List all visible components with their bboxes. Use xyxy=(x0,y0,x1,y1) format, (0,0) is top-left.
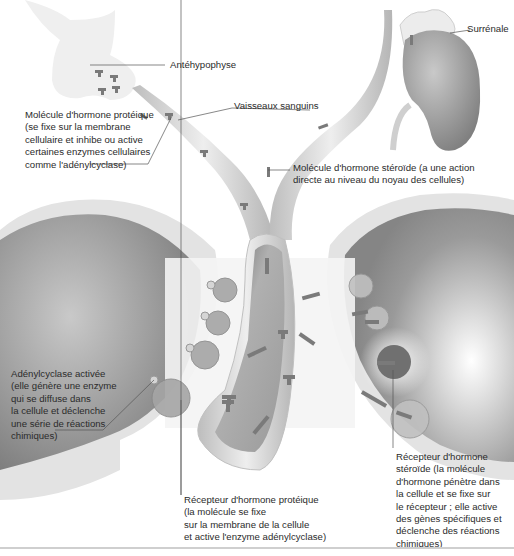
label-hormone-proteique: Molécule d'hormone protéique (se fixe su… xyxy=(25,109,154,171)
label-adenylcyclase: Adénylcyclase activée (elle génère une e… xyxy=(11,368,117,442)
hormone-diagram: Antéhypophyse Vaisseaux sanguins Surréna… xyxy=(0,0,514,556)
bottom-divider xyxy=(0,547,514,549)
label-recepteur-steroide: Récepteur d'hormone stéroïde (la molécul… xyxy=(396,451,502,550)
label-vaisseaux-sanguins: Vaisseaux sanguins xyxy=(234,100,319,112)
label-surrenale: Surrénale xyxy=(467,23,509,35)
label-recepteur-proteique: Récepteur d'hormone protéique (la molécu… xyxy=(184,494,326,544)
label-antehypophyse: Antéhypophyse xyxy=(170,59,236,71)
label-hormone-steroide: Molécule d'hormone stéroïde (a une actio… xyxy=(293,162,475,187)
